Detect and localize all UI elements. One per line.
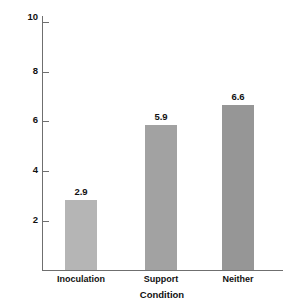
y-tick-label-10: 10 xyxy=(8,11,38,22)
y-axis-line xyxy=(42,16,43,271)
y-tick-10 xyxy=(43,22,49,23)
y-tick-2 xyxy=(43,221,49,222)
bar-inoculation xyxy=(65,200,97,270)
bar-value-support: 5.9 xyxy=(141,111,181,122)
bar-value-inoculation: 2.9 xyxy=(61,186,101,197)
y-tick-label-8: 8 xyxy=(8,65,38,76)
x-category-label-inoculation: Inoculation xyxy=(41,274,121,284)
y-tick-label-6: 6 xyxy=(8,114,38,125)
x-axis-title: Condition xyxy=(42,289,282,300)
y-tick-label-2: 2 xyxy=(8,214,38,225)
y-tick-label-4: 4 xyxy=(8,164,38,175)
x-category-label-support: Support xyxy=(126,274,196,284)
x-category-label-neither: Neither xyxy=(203,274,273,284)
y-axis-title-wrapper: Amount of Attitude Change Produced by St… xyxy=(2,0,20,290)
y-tick-4 xyxy=(43,171,49,172)
bar-neither xyxy=(222,105,254,270)
bar-support xyxy=(145,125,177,270)
x-axis-line xyxy=(42,270,283,271)
bar-value-neither: 6.6 xyxy=(218,91,258,102)
y-tick-8 xyxy=(43,72,49,73)
y-tick-6 xyxy=(43,121,49,122)
bar-chart: Amount of Attitude Change Produced by St… xyxy=(0,0,290,308)
